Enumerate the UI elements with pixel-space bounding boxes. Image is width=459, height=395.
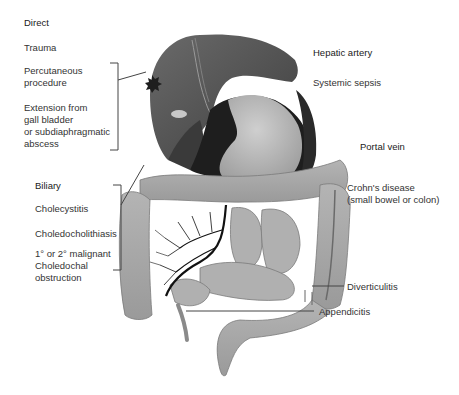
ascending-colon bbox=[119, 192, 152, 320]
label-obstruction: obstruction bbox=[35, 272, 81, 284]
label-direct-heading: Direct bbox=[24, 17, 49, 29]
label-gall-bladder: gall bladder bbox=[24, 114, 73, 126]
label-biliary-heading: Biliary bbox=[35, 180, 61, 192]
label-portal-vein-heading: Portal vein bbox=[360, 141, 405, 153]
label-cholecystitis: Cholecystitis bbox=[35, 203, 88, 215]
label-trauma: Trauma bbox=[24, 42, 56, 54]
label-subdiaphragmatic: or subdiaphragmatic bbox=[24, 126, 110, 138]
label-choledochal: Choledochal bbox=[35, 260, 88, 272]
label-hepatic-artery-heading: Hepatic artery bbox=[313, 47, 372, 59]
label-extension-from: Extension from bbox=[24, 102, 87, 114]
label-crohns: Crohn's disease bbox=[347, 182, 415, 194]
appendix bbox=[178, 305, 187, 340]
label-abscess: abscess bbox=[24, 138, 59, 150]
label-appendicitis: Appendicitis bbox=[319, 306, 370, 318]
label-small-bowel-colon: (small bowel or colon) bbox=[347, 194, 439, 206]
label-systemic-sepsis: Systemic sepsis bbox=[313, 77, 381, 89]
gallbladder bbox=[171, 110, 187, 118]
label-procedure: procedure bbox=[24, 77, 67, 89]
label-choledocholithiasis: Choledocholithiasis bbox=[35, 228, 117, 240]
label-malignant: 1° or 2° malignant bbox=[35, 248, 111, 260]
label-diverticulitis: Diverticulitis bbox=[347, 281, 398, 293]
descending-colon bbox=[312, 184, 350, 309]
small-bowel bbox=[170, 207, 300, 305]
label-percutaneous: Percutaneous bbox=[24, 65, 83, 77]
direct-bracket bbox=[110, 63, 146, 150]
